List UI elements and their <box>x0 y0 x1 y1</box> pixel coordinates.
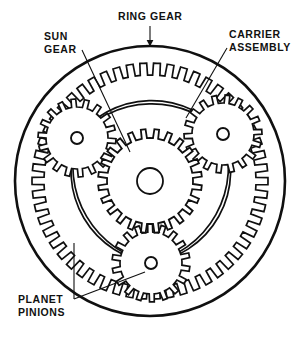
sun-gear-bore <box>137 168 163 194</box>
label-sun-gear: SUN GEAR <box>44 30 77 55</box>
planet-right-pin <box>217 128 229 140</box>
label-carrier-assembly: CARRIER ASSEMBLY <box>229 28 291 53</box>
planet-bottom-pin <box>145 257 157 269</box>
label-planet-pinions: PLANET PINIONS <box>18 293 65 318</box>
label-ring-gear: RING GEAR <box>118 10 182 23</box>
planet-left-pin <box>71 132 83 144</box>
planetary-gear-diagram: RING GEAR SUN GEAR CARRIER ASSEMBLY PLAN… <box>0 0 306 340</box>
